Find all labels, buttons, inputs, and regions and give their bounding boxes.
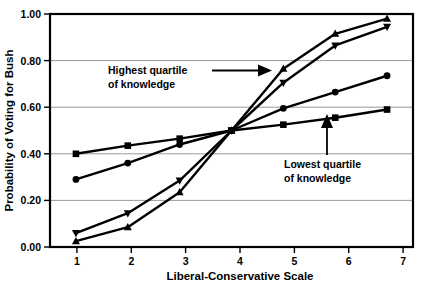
- chart-figure: 1.00 0.80 0.60 0.40 0.20 0.00 1 2 3 4 5 …: [0, 0, 424, 285]
- data-point-marker: [280, 121, 287, 128]
- x-tick-label: 7: [400, 255, 406, 267]
- data-point-marker: [73, 151, 80, 158]
- data-point-marker: [332, 114, 339, 121]
- chart-canvas: 1.00 0.80 0.60 0.40 0.20 0.00 1 2 3 4 5 …: [0, 0, 424, 285]
- x-tick-label: 3: [183, 255, 189, 267]
- annotation-highest-quartile-line1: Highest quartile: [108, 64, 188, 76]
- y-tick-label: 0.00: [21, 241, 42, 253]
- data-point-marker: [332, 89, 339, 96]
- y-tick-label: 0.60: [21, 101, 42, 113]
- y-axis-title: Probability of Voting for Bush: [3, 49, 15, 211]
- x-axis-title: Liberal-Conservative Scale: [166, 270, 313, 282]
- data-point-marker: [124, 160, 131, 167]
- x-tick-label: 2: [128, 255, 134, 267]
- data-point-marker: [176, 135, 183, 142]
- y-tick-label: 0.40: [21, 148, 42, 160]
- data-point-marker: [124, 142, 131, 149]
- data-point-marker: [384, 106, 391, 113]
- data-point-marker: [280, 105, 287, 112]
- annotation-lowest-quartile-line2: of knowledge: [284, 172, 351, 184]
- y-tick-label: 0.20: [21, 194, 42, 206]
- data-point-marker: [73, 176, 80, 183]
- x-tick-label: 5: [291, 255, 297, 267]
- x-tick-label: 4: [237, 255, 243, 267]
- data-point-marker: [384, 72, 391, 79]
- chart-background: [0, 0, 424, 285]
- annotation-highest-quartile-line2: of knowledge: [108, 78, 175, 90]
- y-tick-label: 0.80: [21, 55, 42, 67]
- annotation-lowest-quartile-line1: Lowest quartile: [284, 158, 361, 170]
- data-point-marker: [176, 141, 183, 148]
- y-tick-label: 1.00: [21, 8, 42, 20]
- x-tick-label: 6: [346, 255, 352, 267]
- x-tick-label: 1: [74, 255, 80, 267]
- data-point-marker: [228, 127, 235, 134]
